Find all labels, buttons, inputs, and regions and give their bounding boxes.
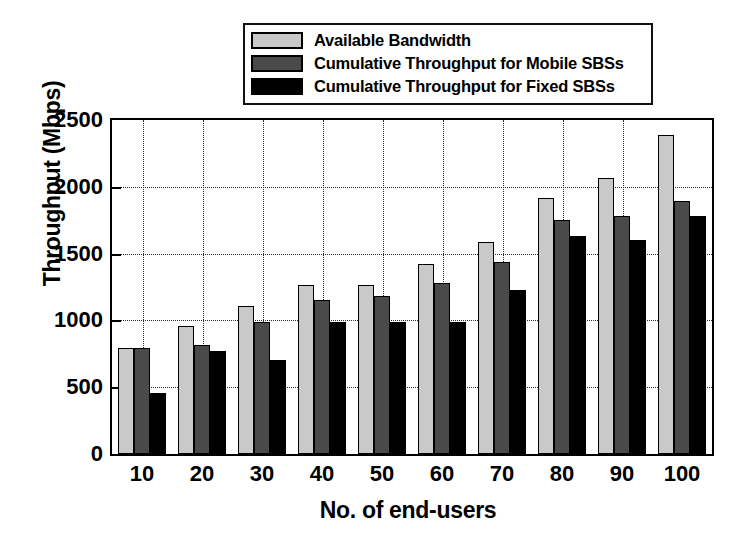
bar <box>390 322 406 454</box>
bar <box>134 348 150 454</box>
legend-swatch-series-1 <box>251 55 303 72</box>
bar-group <box>356 285 408 454</box>
y-tick-mark <box>112 187 121 189</box>
x-tick-label: 60 <box>430 461 454 487</box>
bar <box>270 360 286 454</box>
bar <box>478 242 494 454</box>
bar <box>570 236 586 454</box>
bar <box>494 262 510 454</box>
x-tick-label: 10 <box>130 461 154 487</box>
y-tick-label: 2500 <box>54 107 103 133</box>
bar-group <box>596 178 648 454</box>
y-tick-label: 0 <box>91 441 103 467</box>
bar <box>298 285 314 454</box>
bar <box>690 216 706 454</box>
y-tick-mark <box>112 254 121 256</box>
bar <box>194 345 210 454</box>
legend-entry-fixed-sbss: Cumulative Throughput for Fixed SBSs <box>251 75 645 98</box>
x-tick-label: 80 <box>550 461 574 487</box>
bar <box>178 326 194 454</box>
bar-group <box>536 198 588 454</box>
bar <box>118 348 134 454</box>
y-tick-mark <box>112 320 121 322</box>
legend-entry-available-bandwidth: Available Bandwidth <box>251 29 645 52</box>
x-tick-label: 30 <box>250 461 274 487</box>
chart-figure: Available Bandwidth Cumulative Throughpu… <box>0 0 736 542</box>
plot-inner: 0500100015002000250010203040506070809010… <box>112 120 712 454</box>
legend-label-series-0: Available Bandwidth <box>314 31 471 50</box>
bar <box>358 285 374 454</box>
x-tick-label: 90 <box>610 461 634 487</box>
plot-area: 0500100015002000250010203040506070809010… <box>110 118 714 456</box>
legend-entry-mobile-sbss: Cumulative Throughput for Mobile SBSs <box>251 52 645 75</box>
bar-group <box>416 264 468 454</box>
bar <box>314 300 330 454</box>
bar-group <box>296 285 348 454</box>
bar <box>254 322 270 454</box>
x-tick-label: 70 <box>490 461 514 487</box>
bar <box>538 198 554 454</box>
bar <box>210 351 226 454</box>
bar <box>598 178 614 454</box>
chart-legend: Available Bandwidth Cumulative Throughpu… <box>243 23 653 105</box>
y-tick-label: 500 <box>66 374 103 400</box>
bar <box>238 306 254 454</box>
bar <box>630 240 646 454</box>
bar-group <box>236 306 288 454</box>
bar-group <box>476 242 528 454</box>
legend-label-series-2: Cumulative Throughput for Fixed SBSs <box>314 77 615 96</box>
x-tick-label: 50 <box>370 461 394 487</box>
y-tick-label: 1000 <box>54 307 103 333</box>
bar <box>614 216 630 454</box>
bar <box>330 322 346 454</box>
x-tick-label: 20 <box>190 461 214 487</box>
x-axis-label: No. of end-users <box>103 497 713 524</box>
x-tick-label: 100 <box>664 461 701 487</box>
bar <box>554 220 570 454</box>
bar-group <box>656 135 708 454</box>
legend-swatch-series-2 <box>251 78 303 95</box>
bar <box>418 264 434 454</box>
legend-label-series-1: Cumulative Throughput for Mobile SBSs <box>314 54 624 73</box>
legend-swatch-series-0 <box>251 32 303 49</box>
bar <box>434 283 450 454</box>
bar <box>450 322 466 454</box>
y-tick-label: 1500 <box>54 241 103 267</box>
bar <box>658 135 674 454</box>
bar-group <box>176 326 228 454</box>
bar <box>150 393 166 454</box>
bar <box>674 201 690 454</box>
y-tick-label: 2000 <box>54 174 103 200</box>
bar <box>374 296 390 454</box>
bar-group <box>116 348 168 454</box>
x-tick-label: 40 <box>310 461 334 487</box>
bar <box>510 290 526 454</box>
